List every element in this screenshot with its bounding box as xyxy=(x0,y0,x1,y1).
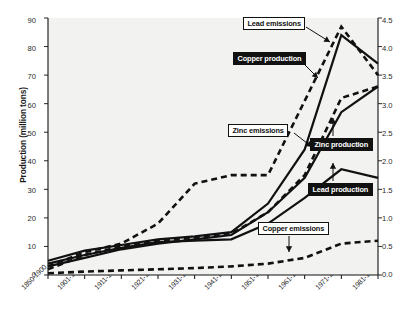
chart-container: Production (million tons) 90 80 70 60 50… xyxy=(0,0,409,320)
plot-area xyxy=(0,0,409,320)
callout-lead-production: Lead production xyxy=(308,183,373,196)
callout-copper-emissions: Copper emissions xyxy=(258,222,329,235)
callout-zinc-emissions: Zinc emissions xyxy=(228,124,288,137)
callout-zinc-production: Zinc production xyxy=(310,138,373,151)
callout-copper-production: Copper production xyxy=(233,52,306,65)
callout-lead-emissions: Lead emissions xyxy=(243,17,305,30)
